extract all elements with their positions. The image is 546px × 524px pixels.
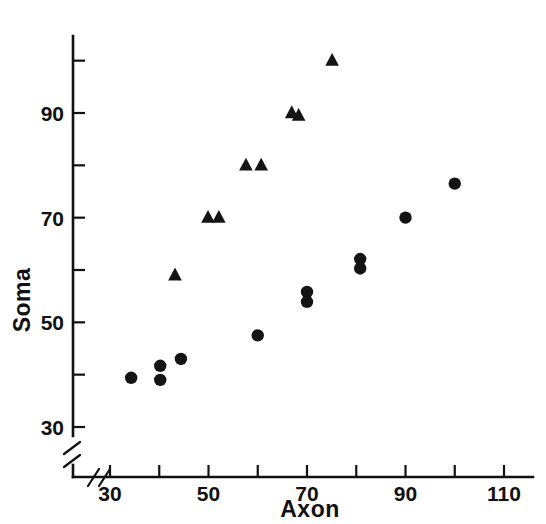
x-axis-title: Axon	[280, 496, 340, 522]
data-points-layer	[125, 53, 461, 386]
data-point-circle	[354, 262, 366, 274]
y-axis-tick-label: 30	[41, 416, 64, 439]
y-axis: 30507090	[41, 36, 85, 477]
data-point-triangle	[325, 53, 339, 66]
x-axis-tick-label: 90	[394, 482, 417, 505]
data-point-triangle	[212, 210, 226, 223]
data-point-circle	[154, 360, 166, 372]
data-point-circle	[125, 372, 137, 384]
data-point-circle	[301, 296, 313, 308]
data-point-triangle	[239, 158, 253, 171]
x-axis-tick-label: 110	[487, 482, 521, 505]
scatter-plot-figure: 30507090 30507090110 Soma Axon	[0, 0, 546, 524]
y-axis-tick-label: 50	[41, 311, 64, 334]
data-point-circle	[154, 374, 166, 386]
x-axis-tick-label: 50	[197, 482, 220, 505]
y-axis-tick-label: 70	[41, 207, 64, 230]
y-axis-title: Soma	[9, 268, 35, 333]
data-point-circle	[252, 329, 264, 341]
x-axis-tick-label: 30	[98, 482, 121, 505]
plot-canvas: 30507090 30507090110 Soma Axon	[0, 0, 546, 524]
data-point-triangle	[201, 210, 215, 223]
y-axis-tick-label: 90	[41, 102, 64, 125]
y-axis-break-mark	[64, 442, 80, 454]
data-point-circle	[175, 353, 187, 365]
data-point-triangle	[254, 158, 268, 171]
data-point-triangle	[168, 268, 182, 281]
data-point-circle	[449, 177, 461, 189]
data-point-circle	[399, 211, 411, 223]
